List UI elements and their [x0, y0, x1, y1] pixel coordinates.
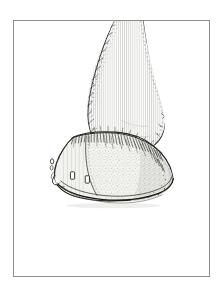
clinch-toe-lower	[50, 166, 53, 170]
page-root: horse-hoof-and-pastern	[0, 0, 223, 300]
clinch-toe	[50, 159, 53, 164]
hoof-illustration	[14, 21, 209, 276]
ground-shadow	[65, 203, 160, 208]
clinch-left	[70, 172, 74, 179]
plate-frame	[13, 20, 210, 277]
clinch-right	[85, 176, 89, 183]
